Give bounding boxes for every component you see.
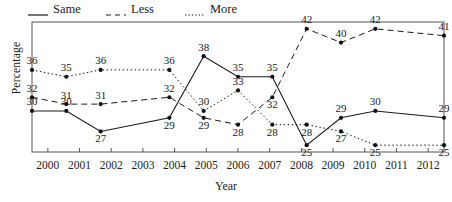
data-point-label: 27 bbox=[95, 132, 107, 144]
data-point-label: 32 bbox=[27, 82, 38, 94]
data-point bbox=[30, 95, 34, 99]
data-point bbox=[270, 75, 274, 79]
data-point-label: 32 bbox=[164, 82, 175, 94]
data-point bbox=[30, 68, 34, 72]
x-axis-tick-labels: 2000200120022003200420052006200720082009… bbox=[0, 159, 452, 175]
x-axis-tick-label: 2002 bbox=[100, 159, 123, 171]
data-point-label: 29 bbox=[164, 119, 176, 131]
x-axis-tick-label: 2008 bbox=[290, 159, 313, 171]
data-point-label: 35 bbox=[267, 61, 279, 73]
x-axis-tick-label: 2006 bbox=[227, 159, 250, 171]
data-point-label: 41 bbox=[439, 20, 450, 32]
data-point-label: 42 bbox=[301, 13, 312, 25]
data-point-label: 28 bbox=[301, 126, 313, 138]
chart-figure: Same Less More Percentage 30302729383535… bbox=[0, 0, 452, 202]
x-axis-tick-label: 2005 bbox=[195, 159, 218, 171]
data-point bbox=[373, 109, 377, 113]
x-axis-tick-label: 2009 bbox=[322, 159, 345, 171]
x-axis-tick-label: 2001 bbox=[68, 159, 91, 171]
data-point bbox=[167, 68, 171, 72]
data-point bbox=[64, 102, 68, 106]
x-axis-tick-label: 2012 bbox=[417, 159, 440, 171]
data-point-label: 25 bbox=[439, 146, 451, 158]
data-point bbox=[202, 54, 206, 58]
data-point bbox=[64, 75, 68, 79]
data-point-label: 42 bbox=[370, 13, 381, 25]
x-axis-tick-label: 2007 bbox=[258, 159, 281, 171]
x-axis-tick-label: 2000 bbox=[36, 159, 59, 171]
data-point-label: 29 bbox=[336, 102, 348, 114]
data-point bbox=[236, 88, 240, 92]
x-axis-tick-label: 2003 bbox=[131, 159, 154, 171]
x-axis-tick-label: 2010 bbox=[353, 159, 376, 171]
data-point-label: 40 bbox=[336, 27, 348, 39]
data-point-label: 29 bbox=[198, 119, 210, 131]
data-point-label: 35 bbox=[233, 61, 245, 73]
x-axis-title: Year bbox=[0, 179, 452, 194]
data-point-label: 28 bbox=[267, 126, 279, 138]
data-point bbox=[305, 27, 309, 31]
data-point bbox=[30, 109, 34, 113]
data-point-label: 31 bbox=[95, 89, 106, 101]
data-point-label: 28 bbox=[233, 126, 245, 138]
data-point-label: 25 bbox=[370, 146, 382, 158]
data-point bbox=[339, 40, 343, 44]
data-point-label: 35 bbox=[61, 61, 73, 73]
data-point-label: 29 bbox=[439, 102, 451, 114]
data-point bbox=[339, 116, 343, 120]
data-point-label: 25 bbox=[301, 146, 313, 158]
data-point bbox=[167, 95, 171, 99]
data-point-label: 30 bbox=[198, 95, 210, 107]
data-point-label: 36 bbox=[164, 54, 176, 66]
data-point-label: 31 bbox=[61, 89, 72, 101]
data-point bbox=[202, 109, 206, 113]
data-point bbox=[442, 34, 446, 38]
data-point bbox=[442, 116, 446, 120]
data-point bbox=[99, 102, 103, 106]
data-point-label: 38 bbox=[198, 41, 210, 53]
data-point bbox=[64, 109, 68, 113]
x-axis-tick-label: 2011 bbox=[385, 159, 408, 171]
data-point bbox=[373, 27, 377, 31]
data-point-label: 36 bbox=[27, 54, 39, 66]
data-point-label: 30 bbox=[370, 95, 382, 107]
data-point-label: 27 bbox=[336, 132, 348, 144]
x-axis-tick-label: 2004 bbox=[163, 159, 186, 171]
data-point-label: 36 bbox=[95, 54, 107, 66]
data-point-label: 32 bbox=[267, 98, 278, 110]
data-point bbox=[99, 68, 103, 72]
data-point-label: 33 bbox=[233, 75, 245, 87]
